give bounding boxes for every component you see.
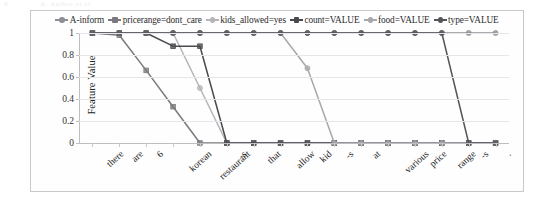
series-marker <box>197 86 202 91</box>
y-tick-mark <box>76 121 80 122</box>
y-tick-mark <box>76 77 80 78</box>
x-tick-mark <box>200 143 201 147</box>
legend-label: kids_allowed=yes <box>220 15 286 25</box>
x-tick-label: are <box>129 148 145 164</box>
x-tick-mark <box>307 143 308 147</box>
x-tick-label: -s <box>343 148 356 161</box>
plot-area: Feature Value 00.20.40.60.81thereare6kor… <box>79 33 509 143</box>
running-head: A. Author et al. <box>40 0 93 8</box>
legend-item-4[interactable]: food=VALUE <box>364 15 430 25</box>
y-tick-mark <box>76 55 80 56</box>
legend-label: food=VALUE <box>378 15 430 25</box>
legend-marker-icon <box>434 16 447 24</box>
x-tick-label: -s <box>477 148 490 161</box>
legend-marker-icon <box>108 16 121 24</box>
x-tick-mark <box>173 143 174 147</box>
x-tick-mark <box>254 143 255 147</box>
x-tick-label: . <box>503 148 512 158</box>
legend-label: type=VALUE <box>448 15 499 25</box>
y-tick-mark <box>76 143 80 144</box>
legend-marker-icon <box>206 16 219 24</box>
series-lines <box>79 33 509 143</box>
y-tick-mark <box>76 33 80 34</box>
x-tick-mark <box>415 143 416 147</box>
x-tick-label: kid <box>318 148 334 164</box>
x-tick-label: various <box>402 148 430 175</box>
x-tick-label: range <box>454 148 477 170</box>
x-tick-label: there <box>104 148 126 169</box>
x-tick-mark <box>146 143 147 147</box>
gridline <box>79 55 509 56</box>
legend-marker-icon <box>364 16 377 24</box>
gridline <box>79 143 509 144</box>
legend-item-0[interactable]: A-inform <box>55 15 104 25</box>
x-tick-mark <box>496 143 497 147</box>
x-tick-mark <box>442 143 443 147</box>
x-tick-mark <box>334 143 335 147</box>
series-marker <box>198 44 203 49</box>
legend-label: A-inform <box>70 15 104 25</box>
y-tick-label: 0.4 <box>62 94 74 104</box>
legend-item-2[interactable]: kids_allowed=yes <box>206 15 286 25</box>
y-tick-label: 0.8 <box>62 50 74 60</box>
x-tick-mark <box>281 143 282 147</box>
x-tick-label: restaurant <box>217 148 252 181</box>
gridline <box>79 33 509 34</box>
figure-container: A-informpricerange=dont_carekids_allowed… <box>30 10 524 192</box>
x-tick-mark <box>469 143 470 147</box>
x-tick-mark <box>227 143 228 147</box>
x-tick-label: korean <box>187 148 214 174</box>
legend-label: count=VALUE <box>304 15 359 25</box>
x-tick-mark <box>388 143 389 147</box>
page-number: 6 <box>4 0 8 8</box>
series-marker <box>144 68 149 73</box>
legend-item-1[interactable]: pricerange=dont_care <box>108 15 202 25</box>
x-tick-mark <box>119 143 120 147</box>
x-tick-label: 6 <box>154 148 165 159</box>
x-tick-label: allow <box>293 148 316 170</box>
series-line-4 <box>92 33 495 143</box>
series-marker <box>171 104 176 109</box>
legend-label: pricerange=dont_care <box>123 15 202 25</box>
page-header-artifact: 6 A. Author et al. <box>0 0 544 9</box>
y-tick-label: 0 <box>69 138 74 148</box>
y-tick-label: 0.6 <box>62 72 74 82</box>
gridline <box>79 77 509 78</box>
legend-marker-icon <box>55 16 68 24</box>
y-tick-label: 1 <box>69 28 74 38</box>
x-tick-mark <box>361 143 362 147</box>
gridline <box>79 99 509 100</box>
y-tick-mark <box>76 99 80 100</box>
x-tick-label: that <box>264 148 282 166</box>
series-marker <box>305 66 310 71</box>
legend-item-3[interactable]: count=VALUE <box>290 15 360 25</box>
x-tick-mark <box>92 143 93 147</box>
legend-item-5[interactable]: type=VALUE <box>434 15 499 25</box>
series-marker <box>171 44 176 49</box>
x-tick-label: price <box>427 148 449 169</box>
gridline <box>79 121 509 122</box>
x-tick-label: at <box>370 148 383 161</box>
y-tick-label: 0.2 <box>62 116 74 126</box>
legend-marker-icon <box>290 16 303 24</box>
chart-legend: A-informpricerange=dont_carekids_allowed… <box>31 15 523 25</box>
